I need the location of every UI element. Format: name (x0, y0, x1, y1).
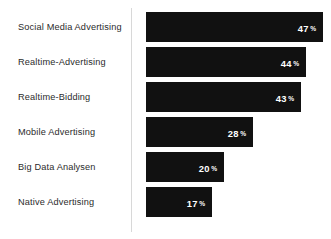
chart-row: Native Advertising 17% (0, 187, 331, 217)
bar: 44% (146, 47, 306, 77)
bar-value-number: 47 (298, 23, 309, 34)
chart-row: Big Data Analysen 20% (0, 152, 331, 182)
bar-value-number: 43 (276, 93, 287, 104)
percent-symbol: % (288, 95, 294, 102)
category-label: Social Media Advertising (18, 12, 122, 42)
bar-value-label: 43% (276, 82, 294, 112)
chart-row: Mobile Advertising 28% (0, 117, 331, 147)
chart-row: Social Media Advertising 47% (0, 12, 331, 42)
category-label: Mobile Advertising (18, 117, 95, 147)
bar-value-number: 28 (228, 128, 239, 139)
category-label: Realtime-Advertising (18, 47, 106, 77)
category-label: Native Advertising (18, 187, 94, 217)
bar: 28% (146, 117, 253, 147)
bar-value-label: 47% (298, 12, 316, 42)
bar: 47% (146, 12, 323, 42)
category-label: Realtime-Bidding (18, 82, 90, 112)
bar: 20% (146, 152, 224, 182)
chart-row: Realtime-Advertising 44% (0, 47, 331, 77)
bar-chart: Social Media Advertising 47% Realtime-Ad… (0, 0, 331, 239)
bar-value-label: 17% (187, 187, 205, 217)
percent-symbol: % (293, 60, 299, 67)
bar: 17% (146, 187, 212, 217)
chart-row: Realtime-Bidding 43% (0, 82, 331, 112)
bar-value-label: 20% (199, 152, 217, 182)
category-label: Big Data Analysen (18, 152, 96, 182)
percent-symbol: % (310, 25, 316, 32)
bar: 43% (146, 82, 301, 112)
bar-value-label: 28% (228, 117, 246, 147)
percent-symbol: % (211, 165, 217, 172)
bar-value-number: 17 (187, 198, 198, 209)
bar-value-number: 20 (199, 163, 210, 174)
bar-value-label: 44% (281, 47, 299, 77)
percent-symbol: % (199, 200, 205, 207)
percent-symbol: % (240, 130, 246, 137)
bar-value-number: 44 (281, 58, 292, 69)
